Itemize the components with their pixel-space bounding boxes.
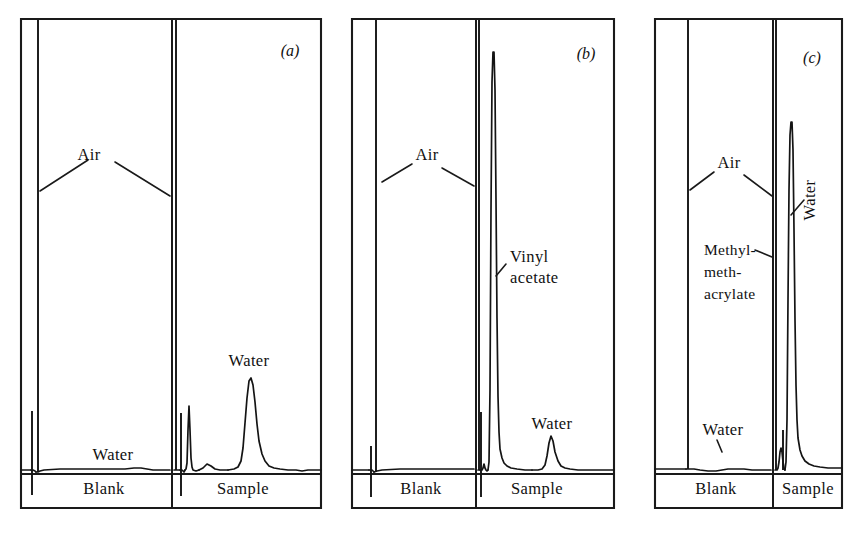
panel-a: Air Water Water (a) Blank Sample bbox=[21, 19, 321, 508]
panel-b-air-leader-right bbox=[442, 168, 474, 186]
panel-c-sample-trace bbox=[775, 20, 842, 470]
panel-a-sample-section-label: Sample bbox=[217, 479, 269, 498]
panel-b-sample-water-peak bbox=[532, 436, 614, 470]
panel-a-blank-section-label: Blank bbox=[83, 479, 125, 498]
panel-c-sample-water-peak bbox=[785, 122, 842, 470]
panel-b-vinyl-label-line2: acetate bbox=[510, 268, 559, 287]
panel-b-id: (b) bbox=[577, 45, 596, 63]
chromatogram-figure: Air Water Water (a) Blank Sample bbox=[0, 0, 864, 533]
panel-c-sample-water-label: Water bbox=[800, 179, 819, 220]
panel-b: Air Vinyl acetate Water (b) Blank Sample bbox=[352, 19, 614, 508]
panel-c-id: (c) bbox=[803, 49, 821, 67]
panel-b-frame bbox=[352, 19, 614, 508]
panel-c: Air Methyl- meth- acrylate Water Water (… bbox=[655, 19, 842, 508]
panel-a-sample-trace bbox=[174, 20, 321, 496]
panel-a-air-leader-left bbox=[40, 160, 88, 191]
panel-c-blank-water-label: Water bbox=[703, 420, 744, 439]
panel-a-sample-water-label: Water bbox=[229, 351, 270, 370]
panel-a-blank-trace bbox=[21, 20, 170, 495]
panel-b-air-label: Air bbox=[415, 145, 438, 164]
panel-a-sample-water-peak bbox=[228, 378, 321, 471]
panel-c-sample-section-label: Sample bbox=[782, 479, 834, 498]
panel-b-blank-section-label: Blank bbox=[400, 479, 442, 498]
panel-c-air-label: Air bbox=[717, 153, 740, 172]
panel-c-blank-water-leader bbox=[717, 440, 722, 452]
panel-c-mma-label-line3: acrylate bbox=[704, 285, 755, 302]
panel-b-vinyl-label-line1: Vinyl bbox=[510, 247, 549, 266]
panel-b-vinyl-leader bbox=[496, 264, 506, 276]
panel-c-mma-label-line2: meth- bbox=[704, 263, 742, 280]
panel-a-air-label: Air bbox=[77, 145, 100, 164]
panel-b-sample-water-label: Water bbox=[532, 414, 573, 433]
panel-c-frame bbox=[655, 19, 842, 508]
panel-b-air-leader-left bbox=[382, 164, 412, 182]
panel-c-mma-label-line1: Methyl- bbox=[704, 241, 756, 258]
panel-c-blank-section-label: Blank bbox=[695, 479, 737, 498]
figure-canvas: Air Water Water (a) Blank Sample bbox=[0, 0, 864, 533]
panel-c-air-leader-left bbox=[690, 172, 714, 190]
panel-a-annotations: Air Water Water (a) Blank Sample bbox=[40, 42, 299, 498]
panel-c-air-leader-right bbox=[744, 175, 772, 196]
panel-b-blank-trace bbox=[352, 20, 474, 497]
panel-c-annotations: Air Methyl- meth- acrylate Water Water (… bbox=[690, 49, 834, 498]
panel-a-id: (a) bbox=[281, 42, 300, 60]
panel-a-air-leader-right bbox=[115, 162, 170, 196]
panel-a-blank-water-label: Water bbox=[93, 445, 134, 464]
panel-b-sample-section-label: Sample bbox=[511, 479, 563, 498]
panel-c-mma-leader bbox=[755, 250, 772, 257]
